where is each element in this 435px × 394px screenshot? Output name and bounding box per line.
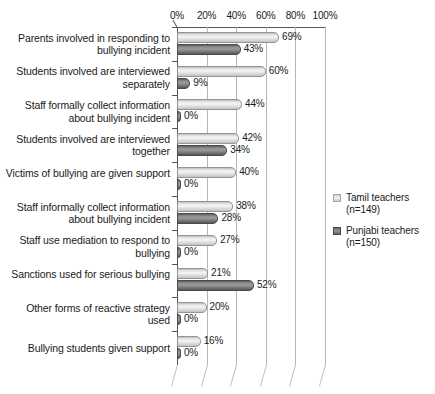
category-axis-tick	[172, 128, 177, 129]
bar-punjabi: 0%	[177, 111, 181, 122]
bar-tamil: 44%	[177, 99, 242, 110]
legend-label: Tamil teachers	[346, 192, 433, 204]
bar-rect	[177, 314, 181, 325]
chart-row: Students involved are interviewed togeth…	[0, 128, 435, 162]
category-label: Students involved are interviewed togeth…	[4, 133, 170, 158]
bar-punjabi: 52%	[177, 280, 254, 291]
bar-rect	[177, 235, 217, 246]
bar-punjabi: 0%	[177, 247, 181, 258]
bar-punjabi: 0%	[177, 348, 181, 359]
chart-row: Bullying students given support16%0%	[0, 331, 435, 365]
category-axis-tick	[172, 297, 177, 298]
bar-punjabi: 43%	[177, 44, 241, 55]
category-label: Other forms of reactive strategy used	[4, 302, 170, 327]
bar-rect	[177, 179, 181, 190]
bar-rect	[177, 111, 181, 122]
bar-rect	[177, 145, 227, 156]
chart-row: Other forms of reactive strategy used20%…	[0, 297, 435, 331]
category-axis-tick	[172, 264, 177, 265]
bar-rect	[177, 348, 181, 359]
bar-value-label: 42%	[242, 132, 261, 144]
bar-value-label: 69%	[282, 31, 301, 43]
bar-tamil: 20%	[177, 302, 207, 313]
legend-item-punjabi[interactable]: Punjabi teachers(n=150)	[333, 225, 433, 249]
bar-value-label: 43%	[244, 43, 263, 55]
bar-value-label: 52%	[257, 279, 276, 291]
chart-legend: Tamil teachers(n=149)Punjabi teachers(n=…	[333, 192, 433, 258]
bar-tamil: 38%	[177, 201, 233, 212]
bar-rect	[177, 280, 254, 291]
bar-rect	[177, 268, 208, 279]
category-axis-tick	[172, 27, 177, 28]
bar-rect	[177, 44, 241, 55]
bar-tamil: 16%	[177, 336, 201, 347]
bar-value-label: 0%	[184, 178, 198, 190]
category-label: Staff informally collect information abo…	[4, 201, 170, 226]
bar-tamil: 27%	[177, 235, 217, 246]
bar-rect	[177, 201, 233, 212]
bar-value-label: 44%	[245, 98, 264, 110]
bar-rect	[177, 32, 279, 43]
chart-row: Sanctions used for serious bullying21%52…	[0, 264, 435, 298]
bar-rect	[177, 302, 207, 313]
bar-rect	[177, 247, 181, 258]
bar-value-label: 20%	[210, 301, 229, 313]
category-axis-tick	[172, 196, 177, 197]
bar-punjabi: 0%	[177, 314, 181, 325]
bar-tamil: 60%	[177, 66, 266, 77]
bar-rect	[177, 167, 236, 178]
legend-swatch-icon	[333, 194, 341, 202]
category-label: Sanctions used for serious bullying	[4, 268, 170, 281]
category-label: Bullying students given support	[4, 342, 170, 355]
category-label: Staff formally collect information about…	[4, 99, 170, 124]
chart-row: Staff formally collect information about…	[0, 95, 435, 129]
bar-rect	[177, 336, 201, 347]
bar-rect	[177, 66, 266, 77]
bar-tamil: 21%	[177, 268, 208, 279]
bar-value-label: 34%	[230, 144, 249, 156]
bar-punjabi: 9%	[177, 78, 190, 89]
category-label: Victims of bullying are given support	[4, 167, 170, 180]
category-axis-tick	[172, 95, 177, 96]
bar-value-label: 21%	[211, 267, 230, 279]
category-label: Staff use mediation to respond to bullyi…	[4, 234, 170, 259]
chart-row: Students involved are interviewed separa…	[0, 61, 435, 95]
bar-punjabi: 34%	[177, 145, 227, 156]
legend-sample-size: (n=150)	[346, 237, 433, 249]
legend-item-tamil[interactable]: Tamil teachers(n=149)	[333, 192, 433, 216]
bar-tamil: 40%	[177, 167, 236, 178]
bar-chart: 0%20%40%60%80%100% Parents involved in r…	[0, 0, 435, 394]
category-label: Students involved are interviewed separa…	[4, 65, 170, 90]
bar-value-label: 9%	[193, 77, 207, 89]
bar-value-label: 28%	[221, 212, 240, 224]
bar-rect	[177, 99, 242, 110]
bar-value-label: 16%	[204, 335, 223, 347]
category-axis-tick	[172, 162, 177, 163]
bar-punjabi: 0%	[177, 179, 181, 190]
bar-value-label: 0%	[184, 246, 198, 258]
bar-value-label: 60%	[269, 65, 288, 77]
category-axis-tick	[172, 331, 177, 332]
bar-rect	[177, 78, 190, 89]
bar-value-label: 27%	[220, 234, 239, 246]
bar-tamil: 42%	[177, 133, 239, 144]
bar-tamil: 69%	[177, 32, 279, 43]
category-axis-tick	[172, 61, 177, 62]
bar-punjabi: 28%	[177, 213, 218, 224]
category-label: Parents involved in responding to bullyi…	[4, 32, 170, 57]
bar-value-label: 38%	[236, 200, 255, 212]
bar-value-label: 40%	[239, 166, 258, 178]
legend-label: Punjabi teachers	[346, 225, 433, 237]
chart-row: Parents involved in responding to bullyi…	[0, 27, 435, 61]
category-axis-tick	[172, 230, 177, 231]
legend-swatch-icon	[333, 227, 341, 235]
bar-value-label: 0%	[184, 347, 198, 359]
bar-value-label: 0%	[184, 110, 198, 122]
bar-rect	[177, 133, 239, 144]
legend-sample-size: (n=149)	[346, 204, 433, 216]
bar-value-label: 0%	[184, 313, 198, 325]
bar-rect	[177, 213, 218, 224]
chart-row: Victims of bullying are given support40%…	[0, 162, 435, 196]
